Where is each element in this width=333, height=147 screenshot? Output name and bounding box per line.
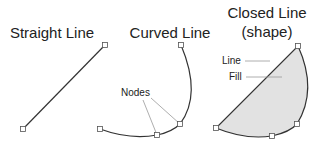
node-icon xyxy=(270,134,275,139)
fill-label: Fill xyxy=(229,71,242,82)
curved-line-example: Nodes xyxy=(98,43,192,138)
closed-line-title: Closed Line xyxy=(227,4,306,21)
straight-line-example xyxy=(21,43,108,132)
node-icon xyxy=(214,126,219,131)
node-icon xyxy=(179,43,184,48)
nodes-label: Nodes xyxy=(121,87,150,98)
closed-line-subtitle: (shape) xyxy=(242,23,293,40)
node-icon xyxy=(155,133,160,138)
nodes-leader-line xyxy=(151,98,180,124)
node-icon xyxy=(295,122,300,127)
closed-shape-example: Line Fill xyxy=(214,44,308,139)
line-types-diagram: Straight Line Curved Line Closed Line (s… xyxy=(0,0,333,147)
nodes-leader-line xyxy=(143,100,157,135)
node-icon xyxy=(178,122,183,127)
node-icon xyxy=(296,44,301,49)
curved-line-title: Curved Line xyxy=(130,24,211,41)
node-icon xyxy=(103,43,108,48)
node-icon xyxy=(98,127,103,132)
node-icon xyxy=(21,127,26,132)
straight-line-title: Straight Line xyxy=(10,24,94,41)
line-label: Line xyxy=(222,55,241,66)
